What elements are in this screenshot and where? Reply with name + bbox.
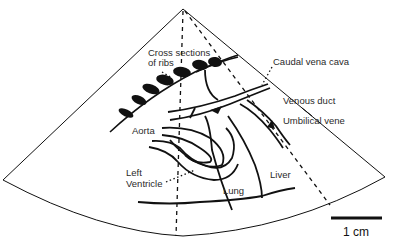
label-left-ventricle-1: Left: [126, 167, 142, 178]
scale-bar: 1 cm: [331, 218, 382, 239]
heart-structures: [149, 108, 238, 180]
ultrasound-diagram: Cross sections of ribs Caudal vena cava …: [0, 0, 393, 246]
label-umbilical-vene: Umbilical vene: [283, 115, 345, 126]
organ-boundaries: [138, 116, 295, 204]
label-liver: Liver: [270, 169, 291, 180]
scale-bar-label: 1 cm: [343, 225, 369, 239]
label-caudal-vena-cava: Caudal vena cava: [273, 56, 350, 67]
rib-arc: [110, 55, 238, 132]
label-venous-duct: Venous duct: [283, 95, 336, 106]
label-left-ventricle-2: Ventricle: [126, 178, 162, 189]
label-aorta: Aorta: [132, 125, 155, 136]
label-cross-sections-of-ribs-2: of ribs: [148, 57, 174, 68]
label-lung: Lung: [223, 185, 244, 196]
